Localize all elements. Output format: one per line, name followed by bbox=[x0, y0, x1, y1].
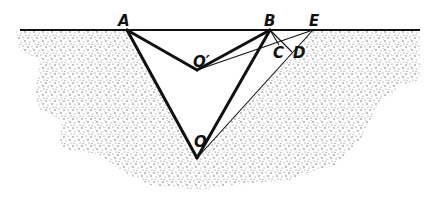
label-B: B bbox=[264, 12, 275, 30]
label-O: O bbox=[194, 133, 207, 151]
label-C: C bbox=[273, 44, 284, 62]
label-A: A bbox=[117, 12, 130, 30]
geometry-diagram: A B E C D O′ O bbox=[0, 0, 433, 203]
label-D: D bbox=[293, 44, 305, 62]
label-E: E bbox=[309, 12, 320, 30]
label-O-prime: O′ bbox=[193, 53, 210, 71]
